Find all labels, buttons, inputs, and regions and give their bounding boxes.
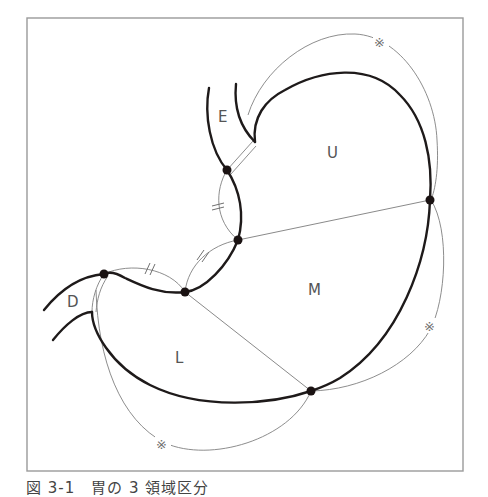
reference-mark-icon: ※ [374,35,385,50]
label-lower: L [175,349,184,367]
guide-arc-upper [248,34,438,200]
equal-mark-1 [212,203,224,210]
guide-arcs [92,34,444,450]
point-cardia [223,166,232,175]
equal-mark-2 [197,250,209,262]
greater-curvature [255,73,431,391]
antrum-lower-wall [92,312,311,403]
reference-mark-icon: ※ [156,437,167,452]
boundary-points [100,166,435,396]
point-greater-upper [426,196,435,205]
lesser-curvature [104,170,241,293]
pylorus-line-2 [96,276,108,312]
guide-arc-lesser-3 [104,268,185,292]
point-greater-lower [307,387,316,396]
divider-middle-lower [185,292,311,391]
equal-marks [145,203,224,275]
guide-arc-lesser-1 [219,170,238,240]
reference-marks: ※ ※ ※ [155,34,439,452]
pylorus-line-1 [92,274,104,312]
figure-caption: 図 3-1 胃の 3 領域区分 [26,476,209,497]
esophagus-right-wall [236,84,255,142]
reference-mark-icon: ※ [424,319,435,334]
label-duodenum: D [67,293,79,311]
esophagus-left-wall [207,88,227,170]
guide-arc-right [311,200,444,391]
cardia-line-1 [227,141,253,170]
point-lesser-lower [181,288,190,297]
cardia-line-2 [231,146,256,174]
duodenum-lower-wall [53,312,92,340]
divider-upper-middle [238,200,430,240]
region-labels: E U M D L [67,108,338,367]
guide-arc-lesser-2 [185,240,238,292]
label-upper: U [327,144,338,162]
label-middle: M [308,281,321,299]
label-esophagus: E [218,108,227,126]
point-pylorus [100,270,109,279]
point-lesser-upper [234,236,243,245]
